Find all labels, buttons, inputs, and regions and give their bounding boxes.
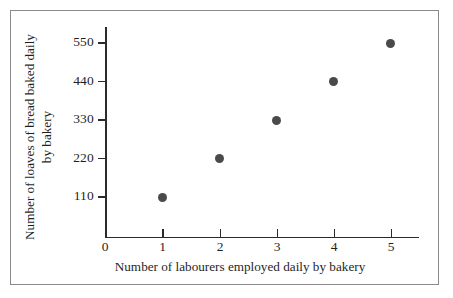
y-axis-title: Number of loaves of bread baked daily by… [21, 15, 55, 259]
y-axis-title-line-2: by bakery [38, 15, 55, 259]
y-axis-tick-220 [98, 158, 106, 160]
y-axis-line [105, 27, 107, 238]
x-axis-tick-3 [277, 229, 279, 237]
x-axis-tick-4 [334, 229, 336, 237]
data-point [329, 77, 338, 86]
x-axis-label-1: 1 [151, 240, 175, 254]
y-axis-title-line-1: Number of loaves of bread baked daily [21, 15, 38, 259]
x-axis-label-3: 3 [265, 240, 289, 254]
x-axis-line [105, 237, 419, 239]
x-axis-title: Number of labourers employed daily by ba… [60, 259, 420, 275]
x-axis-label-5: 5 [379, 240, 403, 254]
plot-area: 550 440 330 220 110 0 1 2 3 4 5 [0, 0, 453, 298]
y-axis-tick-330 [98, 119, 106, 121]
y-axis-tick-440 [98, 81, 106, 83]
data-point [386, 39, 395, 48]
scatter-chart-figure: 550 440 330 220 110 0 1 2 3 4 5 [0, 0, 453, 298]
data-point [272, 116, 281, 125]
x-axis-label-0: 0 [93, 240, 117, 254]
x-axis-label-4: 4 [322, 240, 346, 254]
data-point [158, 193, 167, 202]
x-axis-tick-2 [220, 229, 222, 237]
y-axis-tick-110 [98, 196, 106, 198]
x-axis-tick-1 [162, 229, 164, 237]
x-axis-tick-5 [391, 229, 393, 237]
y-axis-tick-550 [98, 42, 106, 44]
data-point [215, 154, 224, 163]
x-axis-label-2: 2 [208, 240, 232, 254]
